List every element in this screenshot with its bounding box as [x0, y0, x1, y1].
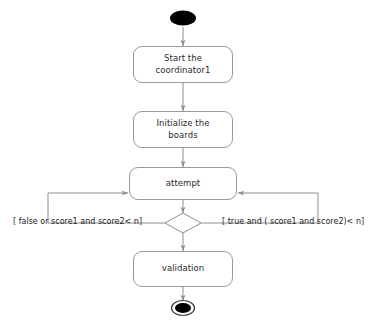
activity-diagram-canvas: Start the coordinator1 Initialize the bo… — [0, 0, 392, 325]
action-node-attempt-label: attempt — [166, 178, 200, 190]
action-node-start-coordinator[interactable]: Start the coordinator1 — [133, 46, 233, 83]
action-node-attempt[interactable]: attempt — [129, 167, 237, 200]
action-node-validation[interactable]: validation — [133, 251, 233, 287]
action-node-start-coordinator-label: Start the coordinator1 — [156, 53, 211, 76]
action-node-initialize-boards-label: Initialize the boards — [157, 118, 210, 141]
guard-label-left: [ false or score1 and score2< n] — [13, 217, 142, 227]
final-node-core — [175, 303, 191, 313]
action-node-validation-label: validation — [162, 263, 204, 275]
guard-label-right: [ true and ( score1 and score2)< n] — [222, 217, 364, 227]
initial-node — [170, 11, 196, 26]
action-node-initialize-boards[interactable]: Initialize the boards — [133, 111, 233, 148]
decision-node — [165, 213, 201, 233]
